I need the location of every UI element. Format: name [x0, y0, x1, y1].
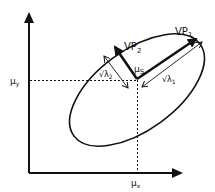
label-mu-y: μy	[10, 76, 20, 88]
y-axis	[24, 12, 34, 173]
x-axis-arrow-icon	[172, 168, 183, 178]
label-sqrt-lambda2: √λ2	[99, 70, 113, 80]
y-axis-arrow-icon	[24, 12, 34, 23]
label-mu-x: μx	[131, 178, 141, 189]
label-sqrt-lambda1: √λ1	[162, 75, 176, 85]
vp1-arrow	[137, 39, 196, 79]
x-axis	[29, 168, 183, 178]
label-vp1: VP1	[175, 26, 192, 39]
label-mu-s: μS	[134, 64, 145, 76]
gaussian-ellipse-diagram: VP1 VP2 μS √λ1 √λ2 μy μx	[0, 0, 215, 192]
